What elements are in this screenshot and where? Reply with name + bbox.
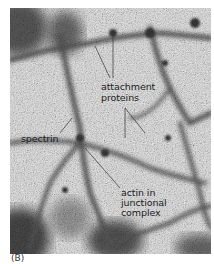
micrograph-texture [10, 8, 211, 254]
actin-label-line3: complex [121, 208, 161, 218]
panel-label: (B) [11, 253, 24, 263]
micrograph-image: attachment proteins spectrin actin in ju… [10, 8, 211, 254]
attachment-proteins-label-line2: proteins [101, 93, 139, 103]
spectrin-label: spectrin [21, 134, 59, 144]
attachment-proteins-label-line1: attachment [101, 82, 155, 92]
